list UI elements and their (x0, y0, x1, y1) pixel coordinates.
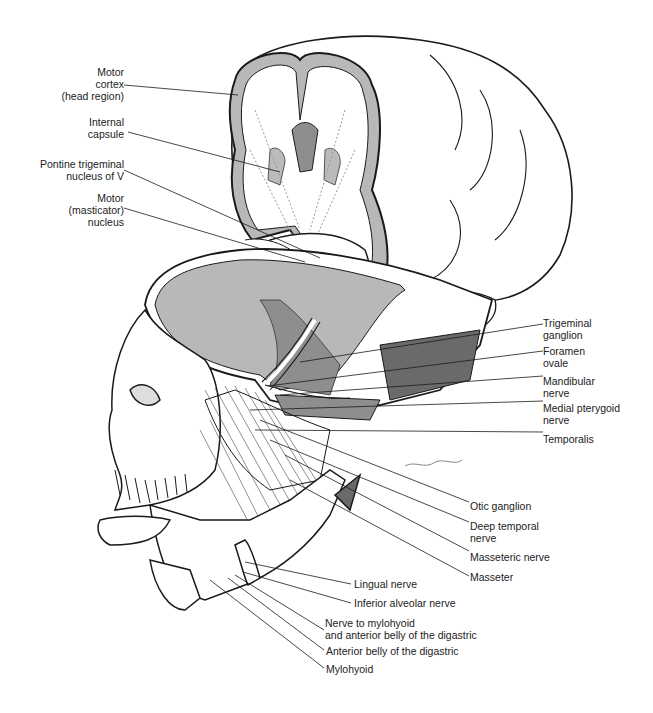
label-line: nerve (470, 532, 539, 544)
label-line: Mylohyoid (326, 663, 373, 675)
label-deep-temporal-nerve: Deep temporal nerve (470, 520, 539, 544)
artist-signature (405, 460, 462, 466)
label-line: Mandibular (543, 375, 595, 387)
label-line: Deep temporal (470, 520, 539, 532)
label-line: Masseteric nerve (470, 551, 550, 563)
label-masseter: Masseter (470, 571, 513, 583)
label-temporalis: Temporalis (543, 433, 594, 445)
label-inferior-alveolar-nerve: Inferior alveolar nerve (354, 597, 456, 609)
label-line: Motor (62, 66, 124, 78)
label-line: Trigeminal (543, 317, 592, 329)
label-anterior-belly-digastric: Anterior belly of the digastric (326, 645, 458, 657)
label-line: ganglion (543, 329, 592, 341)
label-line: capsule (88, 128, 124, 140)
label-line: and anterior belly of the digastric (325, 629, 477, 641)
label-trigeminal-ganglion: Trigeminal ganglion (543, 317, 592, 341)
label-motor-cortex: Motor cortex (head region) (62, 66, 124, 102)
label-line: (head region) (62, 90, 124, 102)
label-line: nerve (543, 387, 595, 399)
label-line: Internal (88, 116, 124, 128)
label-line: Temporalis (543, 433, 594, 445)
label-line: Anterior belly of the digastric (326, 645, 458, 657)
label-line: Nerve to mylohyoid (325, 617, 477, 629)
label-line: ovale (543, 357, 585, 369)
label-line: Inferior alveolar nerve (354, 597, 456, 609)
label-mylohyoid: Mylohyoid (326, 663, 373, 675)
label-line: Masseter (470, 571, 513, 583)
label-line: Medial pterygoid (543, 402, 620, 414)
label-line: Foramen (543, 345, 585, 357)
label-otic-ganglion: Otic ganglion (470, 500, 531, 512)
label-pontine-trigeminal-nucleus: Pontine trigeminal nucleus of V (40, 158, 124, 182)
label-line: cortex (62, 78, 124, 90)
label-line: nucleus of V (40, 170, 124, 182)
label-line: (masticator) (69, 204, 124, 216)
label-lingual-nerve: Lingual nerve (354, 578, 417, 590)
label-internal-capsule: Internal capsule (88, 116, 124, 140)
label-mandibular-nerve: Mandibular nerve (543, 375, 595, 399)
label-nerve-to-mylohyoid: Nerve to mylohyoid and anterior belly of… (325, 617, 477, 641)
label-foramen-ovale: Foramen ovale (543, 345, 585, 369)
label-line: Pontine trigeminal (40, 158, 124, 170)
label-line: nucleus (69, 216, 124, 228)
label-motor-nucleus: Motor (masticator) nucleus (69, 192, 124, 228)
label-line: Motor (69, 192, 124, 204)
label-medial-pterygoid-nerve: Medial pterygoid nerve (543, 402, 620, 426)
label-line: Otic ganglion (470, 500, 531, 512)
label-masseteric-nerve: Masseteric nerve (470, 551, 550, 563)
label-line: Lingual nerve (354, 578, 417, 590)
label-line: nerve (543, 414, 620, 426)
